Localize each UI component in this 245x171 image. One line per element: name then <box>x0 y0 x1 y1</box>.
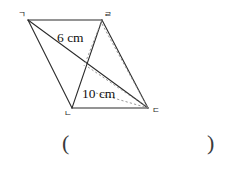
vertex-label-top-right: ㄹ <box>104 9 112 19</box>
vertex-label-top-left: ㄱ <box>18 9 26 19</box>
measurement-label-10cm: 10 cm <box>82 86 116 101</box>
vertex-label-bottom-left: ㄴ <box>64 108 72 118</box>
measurement-label-6cm: 6 cm <box>57 30 84 45</box>
answer-open-paren: ( <box>62 132 69 154</box>
answer-close-paren: ) <box>207 132 214 154</box>
vertex-label-bottom-right: ㄷ <box>152 105 160 115</box>
